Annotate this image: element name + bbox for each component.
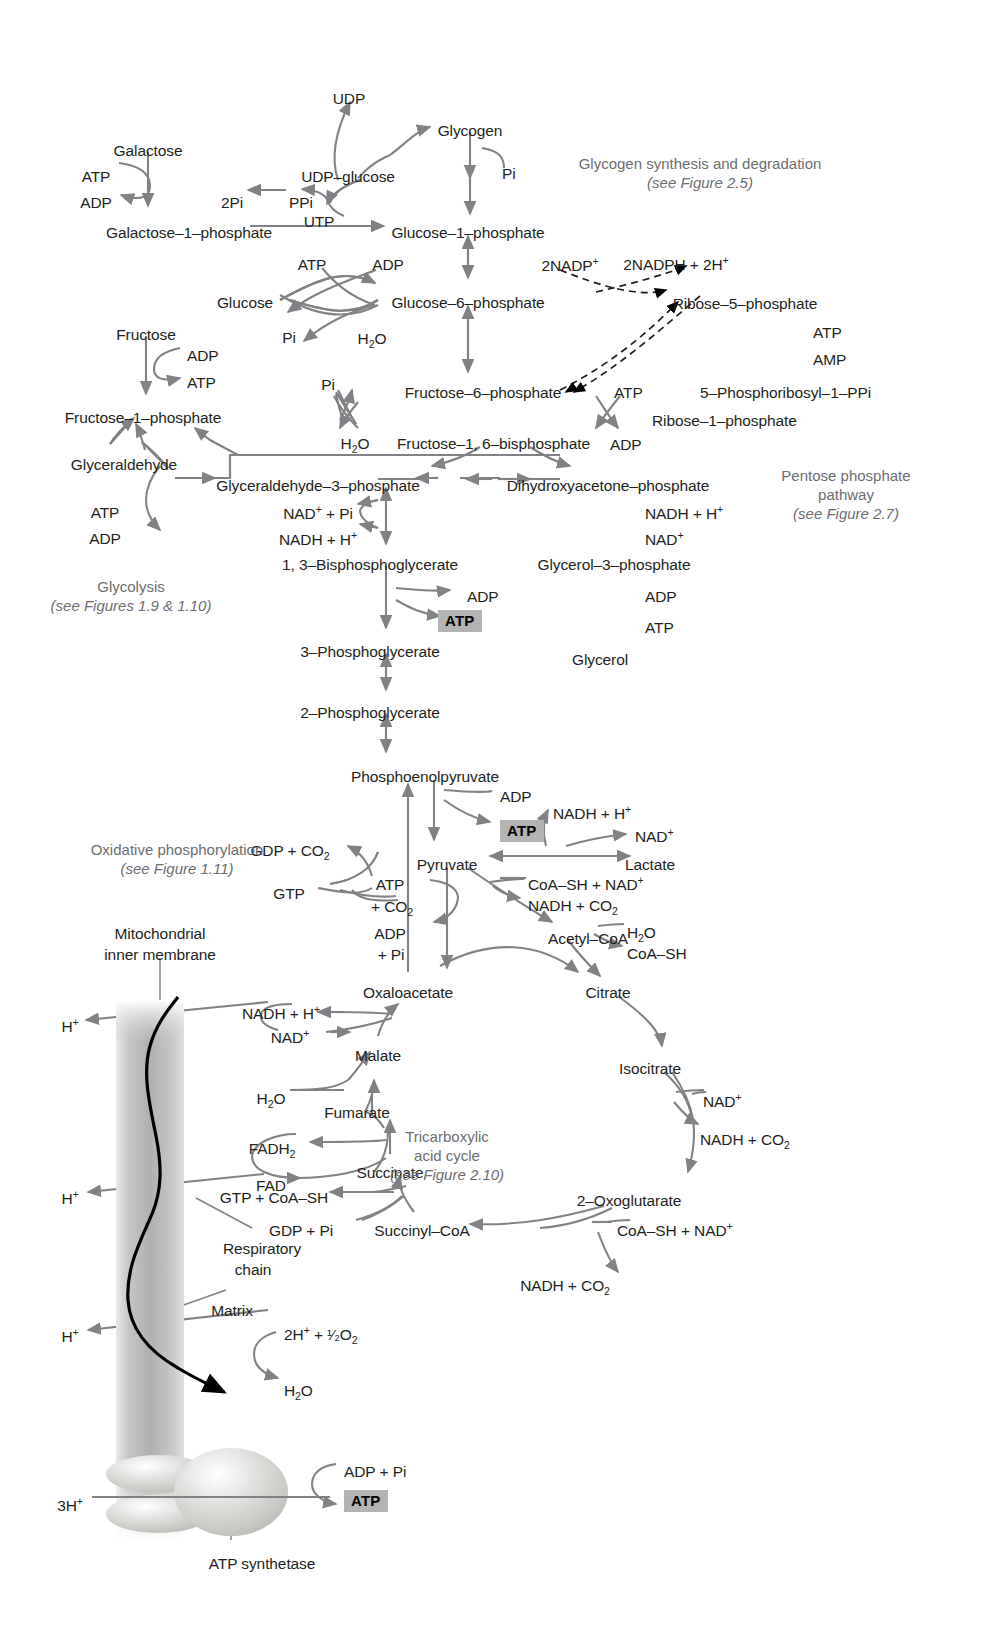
metabolite-nad-idh: NAD+ [703,1093,742,1110]
note-line: (see Figure 1.11) [91,860,264,879]
metabolite-isocitrate: Isocitrate [619,1060,681,1077]
metabolite-succinyl-coa: Succinyl–CoA [374,1222,469,1239]
metabolite-mito-inner-membrane: Mitochondrial [115,925,206,942]
respiratory-chain-curve [128,997,224,1392]
note-line: (see Figure 2.5) [579,174,822,193]
metabolite-nadh-co2-idh: NADH + CO2 [700,1131,790,1148]
metabolite-mito-inner-membrane2: inner membrane [104,946,215,963]
metabolite-respiratory-chain-label2: chain [235,1261,272,1278]
note-line: Glycogen synthesis and degradation [579,155,822,174]
note-line: (see Figure 2.7) [781,505,910,524]
metabolite-gtp-coash: GTP + CoA–SH [220,1189,328,1206]
metabolite-atp-fructose: ATP [187,374,216,391]
metabolite-galactose-1-phosphate: Galactose–1–phosphate [106,224,272,241]
metabolite-adp-pk: ADP [500,788,532,805]
metabolite-nad-malate: NAD+ [271,1029,310,1046]
metabolic-pathway-figure: UDPGlycogenGalactoseUDP–glucoseATPPiADP2… [0,0,1006,1637]
metabolite-adp-pc: ADP [374,925,406,942]
note-oxphos-note: Oxidative phosphorylation(see Figure 1.1… [91,841,264,879]
metabolite-respiratory-chain-label: Respiratory [223,1240,301,1257]
note-pentose-note: Pentose phosphatepathway(see Figure 2.7) [781,467,910,523]
metabolite-two-phosphoglycerate: 2–Phosphoglycerate [300,704,440,721]
metabolite-two-pi: 2Pi [221,194,243,211]
metabolite-udp: UDP [333,90,365,107]
metabolite-adp-pi-synthase: ADP + Pi [344,1463,406,1480]
metabolite-fructose: Fructose [116,326,176,343]
metabolite-glyceraldehyde-3-phosphate: Glyceraldehyde–3–phosphate [216,477,419,494]
metabolite-nadh-malate: NADH + H+ [242,1005,320,1022]
note-line: (see Figure 2.10) [390,1166,504,1185]
mitochondrial-membrane-slab [116,1000,184,1540]
metabolite-glyceraldehyde: Glyceraldehyde [71,456,177,473]
metabolite-two-hplus-half-o2: 2H+ + ¹⁄₂O2 [284,1326,358,1343]
metabolite-h2o-respchain: H2O [284,1382,313,1399]
atp-synthase-shape [106,1448,288,1536]
metabolite-adp-fructose: ADP [187,347,219,364]
metabolite-prpp: 5–Phosphoribosyl–1–PPi [700,384,871,401]
metabolite-nadh-co2-pdh: NADH + CO2 [528,897,618,914]
metabolite-nadh-co2-kgdh: NADH + CO2 [520,1277,610,1294]
metabolite-coash-citrate: CoA–SH [627,945,687,962]
metabolite-nad-dhap: NAD+ [645,531,684,548]
metabolite-ribose-1-phosphate: Ribose–1–phosphate [652,412,797,429]
metabolite-bisphosphoglycerate: 1, 3–Bisphosphoglycerate [282,556,458,573]
metabolite-glycerol: Glycerol [572,651,628,668]
metabolite-malate: Malate [355,1047,401,1064]
metabolite-galactose: Galactose [114,142,183,159]
metabolite-hplus-3: H+ [61,1328,78,1345]
note-tca-note: Tricarboxylicacid cycle(see Figure 2.10) [390,1128,504,1184]
metabolite-atp-synthetase-label: ATP synthetase [209,1555,316,1572]
metabolite-pi-glucose: Pi [282,329,296,346]
metabolite-phosphoenolpyruvate: Phosphoenolpyruvate [351,768,499,785]
metabolite-fructose-1-6-bisphosphate: Fructose–1, 6–bisphosphate [397,435,590,452]
metabolite-glycogen: Glycogen [438,122,503,139]
note-line: Pentose phosphate [781,467,910,486]
metabolite-pyruvate: Pyruvate [417,856,477,873]
metabolite-gtp-pepck: GTP [273,885,305,902]
metabolite-adp-pfk: ADP [610,436,642,453]
metabolite-udp-glucose: UDP–glucose [301,168,395,185]
metabolite-atp-glyceraldehyde: ATP [91,504,120,521]
metabolite-three-hplus: 3H+ [57,1497,83,1514]
metabolite-hplus-1: H+ [61,1018,78,1035]
metabolite-acetyl-coa: Acetyl–CoA [548,930,628,947]
metabolite-co2-pc: + CO2 [371,898,413,915]
note-line: pathway [781,486,910,505]
metabolite-nadh-dhap: NADH + H+ [645,505,723,522]
metabolite-pi-pc: + Pi [378,946,405,963]
metabolite-oxaloacetate: Oxaloacetate [363,984,453,1001]
note-glycogen-note: Glycogen synthesis and degradation(see F… [579,155,822,193]
metabolite-atp-glucose: ATP [298,256,327,273]
metabolite-adp-pgk: ADP [467,588,499,605]
metabolite-amp-ribose: AMP [813,351,846,368]
metabolite-glucose: Glucose [217,294,273,311]
metabolite-two-oxoglutarate: 2–Oxoglutarate [577,1192,682,1209]
metabolite-nadh-lactate: NADH + H+ [553,805,631,822]
metabolite-atp-galactose: ATP [82,168,111,185]
metabolite-lactate: Lactate [625,856,675,873]
metabolite-glucose-1-phosphate: Glucose–1–phosphate [391,224,544,241]
pathway-arrow-layer [0,0,1006,1637]
metabolite-nadh-h: NADH + H+ [279,531,357,548]
note-line: acid cycle [390,1147,504,1166]
note-line: Oxidative phosphorylation [91,841,264,860]
metabolite-fructose-6-phosphate: Fructose–6–phosphate [405,384,562,401]
metabolite-glucose-6-phosphate: Glucose–6–phosphate [391,294,544,311]
note-line: (see Figures 1.9 & 1.10) [51,597,212,616]
metabolite-gdp-pi: GDP + Pi [269,1222,333,1239]
metabolite-two-nadph: 2NADPH + 2H+ [623,256,728,273]
metabolite-atp-pfk: ATP [614,384,643,401]
metabolite-fadh2: FADH2 [249,1140,296,1157]
metabolite-nad-lactate: NAD+ [635,828,674,845]
metabolite-atp-ribose: ATP [813,324,842,341]
metabolite-coash-nad-kgdh: CoA–SH + NAD+ [617,1222,733,1239]
atp-badge: ATP [500,820,544,842]
metabolite-fructose-1-phosphate: Fructose–1–phosphate [65,409,222,426]
note-glycolysis-note: Glycolysis(see Figures 1.9 & 1.10) [51,578,212,616]
metabolite-ppi: PPi [289,194,313,211]
metabolite-utp: UTP [304,213,335,230]
metabolite-citrate: Citrate [586,984,631,1001]
metabolite-fumarate: Fumarate [324,1104,390,1121]
metabolite-hplus-2: H+ [61,1190,78,1207]
metabolite-h2o-fbp: H2O [341,435,370,452]
